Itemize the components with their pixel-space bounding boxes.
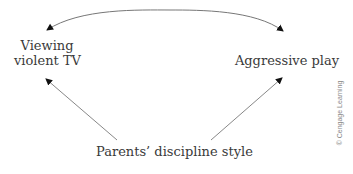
arrow-parents-to-aggressive <box>211 78 282 140</box>
node-viewing-violent-tv: Viewing violent TV <box>14 38 80 68</box>
node-label-line1: Viewing <box>14 38 80 53</box>
arrow-parents-to-tv <box>46 79 117 140</box>
node-label-line2: violent TV <box>14 53 80 68</box>
node-aggressive-play: Aggressive play <box>232 53 342 68</box>
causal-diagram: Viewing violent TV Aggressive play Paren… <box>0 0 353 174</box>
bidirectional-curved-arrow <box>47 10 283 31</box>
node-parents-discipline-style: Parents’ discipline style <box>96 144 246 159</box>
credit-text: © Cengage Learning <box>336 81 343 146</box>
copyright-credit: © Cengage Learning <box>333 78 345 148</box>
